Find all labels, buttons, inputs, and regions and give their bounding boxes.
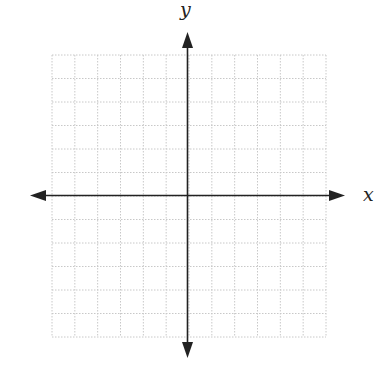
y-axis-top-arrow-icon [182, 32, 193, 48]
x-axis-left-arrow-icon [30, 190, 46, 201]
coordinate-plane: x y [0, 0, 388, 367]
x-axis-right-arrow-icon [329, 190, 345, 201]
y-axis-bottom-arrow-icon [182, 342, 193, 358]
y-axis-label: y [179, 0, 191, 20]
x-axis-label: x [363, 183, 374, 205]
